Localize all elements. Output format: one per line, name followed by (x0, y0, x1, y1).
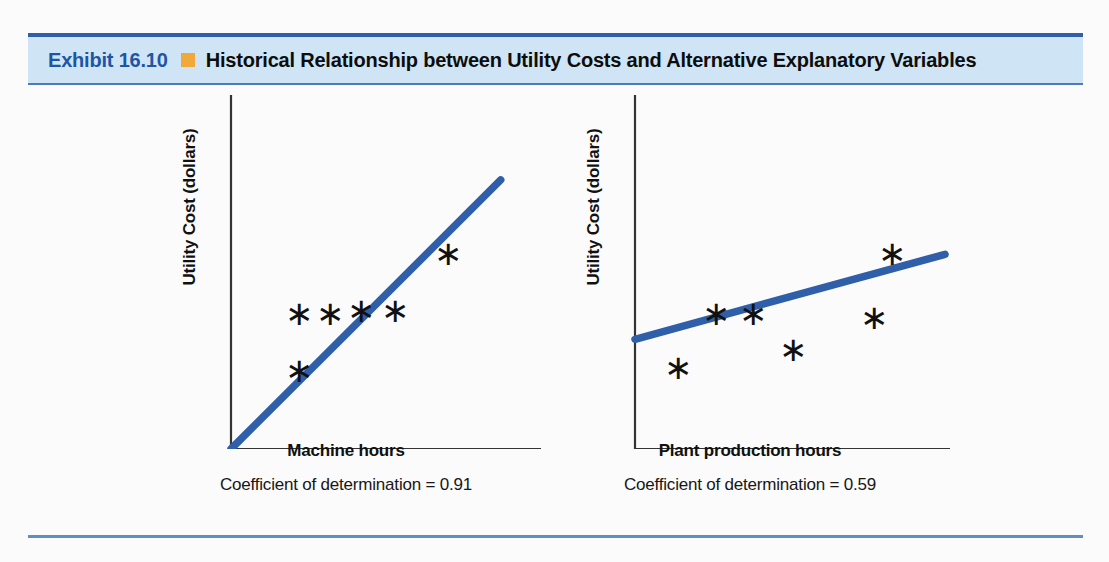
chart-machine-hours: ∗∗∗∗∗∗ Utility Cost (dollars) Machine ho… (146, 89, 546, 535)
charts-container: ∗∗∗∗∗∗ Utility Cost (dollars) Machine ho… (28, 89, 1083, 535)
exhibit-frame: Exhibit 16.10 Historical Relationship be… (28, 33, 1083, 538)
exhibit-title-text: Historical Relationship between Utility … (206, 49, 977, 72)
data-point-asterisk: ∗ (381, 292, 409, 329)
exhibit-number-label: Exhibit 16.10 (48, 49, 168, 72)
bottom-divider (28, 535, 1083, 538)
plot-area-plant-production-hours: ∗∗∗∗∗∗ (550, 89, 950, 449)
data-points-left: ∗∗∗∗∗∗ (285, 235, 462, 389)
data-point-asterisk: ∗ (316, 295, 344, 332)
caption-coefficient-left: Coefficient of determination = 0.91 (126, 475, 566, 495)
data-point-asterisk: ∗ (860, 299, 888, 336)
data-point-asterisk: ∗ (878, 235, 906, 272)
data-point-asterisk: ∗ (434, 235, 462, 272)
x-axis-label-left: Machine hours (146, 441, 546, 461)
data-point-asterisk: ∗ (702, 295, 730, 332)
exhibit-title-band: Exhibit 16.10 Historical Relationship be… (28, 37, 1083, 85)
data-point-asterisk: ∗ (285, 352, 313, 389)
x-axis-label-right: Plant production hours (550, 441, 950, 461)
data-point-asterisk: ∗ (285, 295, 313, 332)
plot-area-machine-hours: ∗∗∗∗∗∗ (146, 89, 546, 449)
caption-coefficient-right: Coefficient of determination = 0.59 (530, 475, 970, 495)
y-axis-label-right: Utility Cost (dollars) (584, 107, 604, 307)
exhibit-page: Exhibit 16.10 Historical Relationship be… (0, 0, 1109, 562)
data-point-asterisk: ∗ (664, 349, 692, 386)
chart-plant-production-hours: ∗∗∗∗∗∗ Utility Cost (dollars) Plant prod… (550, 89, 950, 535)
orange-square-bullet-icon (181, 53, 195, 67)
y-axis-label-left: Utility Cost (dollars) (180, 107, 200, 307)
scatter-svg-machine-hours: ∗∗∗∗∗∗ (146, 89, 546, 449)
data-point-asterisk: ∗ (739, 295, 767, 332)
data-points-right: ∗∗∗∗∗∗ (664, 235, 906, 385)
data-point-asterisk: ∗ (779, 331, 807, 368)
data-point-asterisk: ∗ (347, 292, 375, 329)
scatter-svg-plant-production-hours: ∗∗∗∗∗∗ (550, 89, 950, 449)
